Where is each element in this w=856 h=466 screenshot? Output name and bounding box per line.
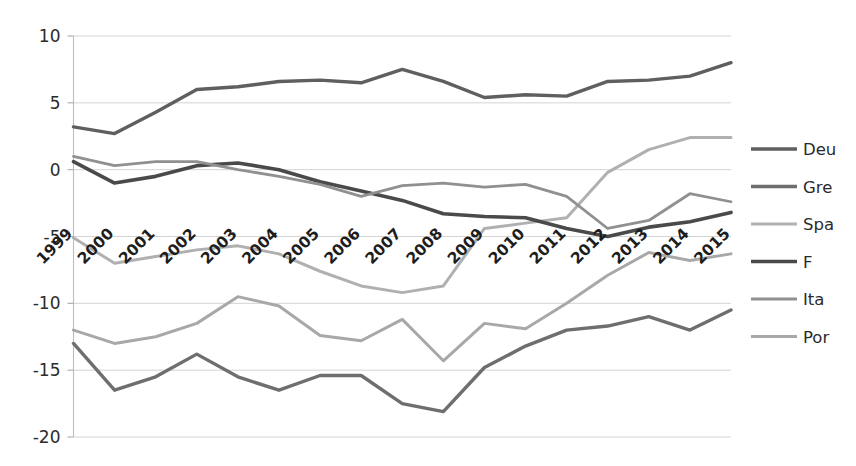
series-line-ita bbox=[74, 156, 732, 228]
series-line-deu bbox=[74, 63, 732, 134]
x-tick-label-2011: 2011 bbox=[526, 225, 569, 268]
series-line-gre bbox=[74, 310, 732, 412]
x-tick-label-2005: 2005 bbox=[280, 225, 323, 268]
y-tick-label: -20 bbox=[33, 427, 61, 447]
line-chart: 1050-5-10-15-20 199920002001200220032004… bbox=[0, 0, 856, 466]
y-tick-label: 5 bbox=[50, 93, 61, 113]
legend-label-por[interactable]: Por bbox=[803, 328, 829, 347]
x-tick-label-2009: 2009 bbox=[444, 225, 487, 268]
series-line-por bbox=[74, 253, 732, 361]
legend-label-ita[interactable]: Ita bbox=[803, 290, 824, 309]
chart-canvas: 1050-5-10-15-20 199920002001200220032004… bbox=[0, 0, 856, 466]
series-line-f bbox=[74, 162, 732, 237]
x-tick-label-2007: 2007 bbox=[362, 225, 405, 268]
x-tick-label-2010: 2010 bbox=[485, 224, 528, 267]
legend-label-spa[interactable]: Spa bbox=[803, 215, 834, 234]
y-tick-label: -15 bbox=[33, 360, 61, 380]
y-tick-label: -10 bbox=[33, 293, 61, 313]
x-tick-label-2008: 2008 bbox=[403, 225, 446, 268]
y-tick-label: 10 bbox=[39, 26, 61, 46]
x-tick-label-2002: 2002 bbox=[156, 225, 199, 268]
legend: DeuGreSpaFItaPor bbox=[751, 140, 836, 347]
legend-label-f[interactable]: F bbox=[803, 253, 813, 272]
x-tick-label-2015: 2015 bbox=[691, 225, 734, 268]
x-tick-label-2006: 2006 bbox=[321, 225, 364, 268]
legend-label-gre[interactable]: Gre bbox=[803, 178, 832, 197]
legend-label-deu[interactable]: Deu bbox=[803, 140, 836, 159]
y-tick-label: 0 bbox=[50, 160, 61, 180]
x-tick-label-2001: 2001 bbox=[115, 225, 158, 268]
